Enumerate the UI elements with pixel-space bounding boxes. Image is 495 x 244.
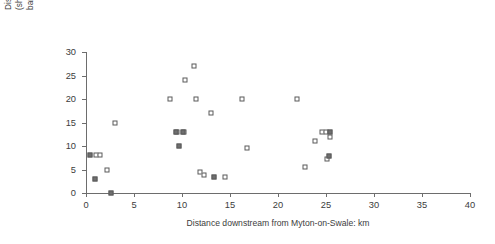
data-point: [211, 174, 216, 179]
data-point: [192, 64, 197, 69]
x-tick-5: 5: [134, 193, 135, 197]
x-tick-label-15: 15: [225, 200, 235, 210]
y-axis-label: Distance of left bank from river side of…: [0, 0, 50, 244]
data-point: [105, 167, 110, 172]
data-point: [167, 97, 172, 102]
data-point: [98, 153, 103, 158]
y-tick-15: 15: [82, 123, 86, 124]
x-tick-20: 20: [278, 193, 279, 197]
x-tick-15: 15: [230, 193, 231, 197]
y-axis-label-line-2: (shaded datapoints are locations where s…: [14, 0, 24, 10]
x-tick-label-35: 35: [417, 200, 427, 210]
y-tick-label-30: 30: [66, 47, 76, 57]
y-tick-30: 30: [82, 52, 86, 53]
x-tick-0: 0: [86, 193, 87, 197]
data-point: [313, 139, 318, 144]
x-tick-label-5: 5: [131, 200, 136, 210]
y-tick-label-5: 5: [71, 165, 76, 175]
y-tick-label-0: 0: [71, 188, 76, 198]
y-tick-label-10: 10: [66, 141, 76, 151]
data-point: [180, 129, 185, 134]
data-point: [87, 153, 92, 158]
x-tick-label-0: 0: [83, 200, 88, 210]
x-axis-label: Distance downstream from Myton-on-Swale:…: [86, 218, 470, 228]
scatter-chart-figure: Distance of left bank from river side of…: [0, 0, 495, 244]
x-tick-25: 25: [326, 193, 327, 197]
data-point: [245, 146, 250, 151]
data-point: [326, 154, 331, 159]
x-tick-40: 40: [470, 193, 471, 197]
y-tick-label-15: 15: [66, 118, 76, 128]
data-point: [112, 120, 117, 125]
data-point: [208, 111, 213, 116]
data-point: [295, 97, 300, 102]
y-axis-label-line-3: bank erosion was recorded): [25, 0, 35, 10]
data-point: [327, 134, 332, 139]
data-point: [223, 174, 228, 179]
data-point: [194, 97, 199, 102]
data-point: [174, 129, 179, 134]
y-tick-label-20: 20: [66, 94, 76, 104]
data-point: [240, 97, 245, 102]
x-tick-label-20: 20: [273, 200, 283, 210]
data-point: [177, 144, 182, 149]
y-tick-20: 20: [82, 99, 86, 100]
data-point: [182, 78, 187, 83]
x-tick-30: 30: [374, 193, 375, 197]
x-tick-label-40: 40: [465, 200, 475, 210]
x-tick-label-30: 30: [369, 200, 379, 210]
x-tick-10: 10: [182, 193, 183, 197]
y-axis-label-line-1: Distance of left bank from river side of…: [3, 0, 13, 10]
data-point: [327, 129, 332, 134]
plot-area: 051015202530 0510152025303540: [86, 52, 470, 193]
data-point: [202, 173, 207, 178]
x-tick-label-10: 10: [177, 200, 187, 210]
data-point: [92, 176, 97, 181]
y-tick-label-25: 25: [66, 71, 76, 81]
data-point: [302, 165, 307, 170]
x-tick-label-25: 25: [321, 200, 331, 210]
x-tick-35: 35: [422, 193, 423, 197]
y-tick-5: 5: [82, 170, 86, 171]
y-tick-10: 10: [82, 146, 86, 147]
y-tick-25: 25: [82, 76, 86, 77]
data-point: [108, 191, 113, 196]
y-axis-line: [86, 52, 87, 193]
